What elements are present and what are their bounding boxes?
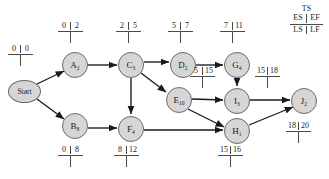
- stem: [180, 32, 181, 43]
- time-label-F-ls: 8: [114, 146, 126, 154]
- time-label-A: 02: [58, 22, 83, 43]
- time-label-F-lf: 12: [127, 146, 139, 154]
- legend-row-early: ES EF: [290, 14, 323, 24]
- time-label-I-ef: 18: [268, 67, 280, 75]
- stem: [128, 32, 129, 43]
- node-E[interactable]: E10: [166, 87, 192, 113]
- time-label-D-ef: 7: [181, 22, 193, 30]
- time-label-D: 57: [168, 22, 193, 43]
- node-J[interactable]: J2: [291, 88, 317, 114]
- node-J-label: J2: [301, 97, 307, 106]
- legend-row-late: LS LF: [290, 25, 323, 34]
- time-label-F: 812: [114, 146, 139, 167]
- time-label-J-lf: 20: [299, 122, 311, 130]
- time-label-A-es: 0: [58, 22, 70, 30]
- stem: [267, 77, 268, 88]
- stem: [126, 156, 127, 167]
- network-diagram-canvas: Start A2 B8 C3 F4 D2 E10 G4 I3 H1 J2 00 …: [0, 0, 329, 179]
- node-F-label: F4: [127, 125, 135, 134]
- time-label-G-es: 7: [220, 22, 232, 30]
- edge-E-H: [188, 109, 224, 127]
- node-start-label: Start: [17, 88, 31, 96]
- time-label-E-ef: 15: [203, 67, 215, 75]
- time-label-start-es: 0: [8, 45, 20, 53]
- time-label-C-ef: 5: [129, 22, 141, 30]
- time-label-B: 08: [58, 146, 83, 167]
- edge-start-A: [37, 71, 64, 84]
- node-G[interactable]: G4: [224, 52, 250, 78]
- node-A-label: A2: [70, 61, 79, 70]
- time-label-G-ef: 11: [233, 22, 245, 30]
- legend-lf-label: LF: [307, 26, 323, 34]
- edge-C-E: [141, 73, 166, 92]
- node-B[interactable]: B8: [62, 113, 88, 139]
- node-I-label: I3: [234, 97, 240, 106]
- stem: [232, 32, 233, 43]
- time-label-G: 711: [220, 22, 245, 43]
- node-C[interactable]: C3: [118, 52, 144, 78]
- legend-es-label: ES: [290, 14, 306, 22]
- node-E-label: E10: [173, 96, 184, 105]
- node-G-label: G4: [232, 61, 241, 70]
- time-label-H-lf: 16: [231, 146, 243, 154]
- time-label-start: 00: [8, 45, 33, 66]
- legend: TS ES EF LS LF: [290, 5, 323, 34]
- time-label-J-ls: 18: [286, 122, 298, 130]
- time-label-B-lf: 8: [71, 146, 83, 154]
- time-label-E: 515: [190, 67, 215, 88]
- edge-layer: [0, 0, 329, 179]
- time-label-D-es: 5: [168, 22, 180, 30]
- time-label-H-ls: 15: [218, 146, 230, 154]
- time-label-A-ef: 2: [71, 22, 83, 30]
- time-label-I: 1518: [255, 67, 280, 88]
- time-label-H: 1516: [218, 146, 243, 167]
- stem: [70, 156, 71, 167]
- node-A[interactable]: A2: [62, 52, 88, 78]
- node-I[interactable]: I3: [224, 88, 250, 114]
- edge-E-I: [192, 99, 223, 100]
- time-label-I-es: 15: [255, 67, 267, 75]
- node-D-label: D2: [178, 61, 187, 70]
- time-label-start-ef: 0: [21, 45, 33, 53]
- time-label-E-es: 5: [190, 67, 202, 75]
- stem: [230, 156, 231, 167]
- node-H[interactable]: H1: [224, 118, 250, 144]
- legend-ls-label: LS: [290, 26, 306, 34]
- time-label-C-es: 2: [116, 22, 128, 30]
- node-H-label: H1: [232, 127, 241, 136]
- stem: [20, 55, 21, 66]
- node-start[interactable]: Start: [8, 80, 41, 103]
- legend-grid: ES EF LS LF: [290, 14, 323, 34]
- stem: [70, 32, 71, 43]
- legend-ef-label: EF: [307, 14, 323, 22]
- time-label-J: 1820: [286, 122, 311, 143]
- edge-start-B: [37, 99, 64, 119]
- legend-ts-label: TS: [290, 5, 323, 13]
- node-C-label: C3: [127, 61, 136, 70]
- node-B-label: B8: [71, 122, 80, 131]
- time-label-B-ls: 0: [58, 146, 70, 154]
- time-label-C: 25: [116, 22, 141, 43]
- stem: [202, 77, 203, 88]
- stem: [298, 132, 299, 143]
- node-F[interactable]: F4: [118, 116, 144, 142]
